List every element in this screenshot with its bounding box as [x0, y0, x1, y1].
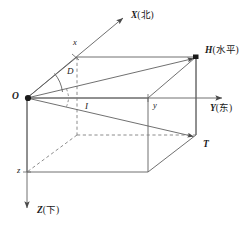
box-hidden-bottom-left-edge: [27, 135, 77, 172]
inclination-angle-arc-lower: [66, 100, 68, 108]
inclination-angle-label: I: [85, 102, 88, 111]
y-axis-tick-label: y: [153, 101, 157, 110]
x-axis-label-paren: (北): [137, 10, 153, 20]
origin-dot: [25, 95, 31, 101]
point-H-dot: [193, 55, 199, 60]
z-axis-label: Z(下): [37, 206, 59, 216]
azimuth-angle-arc: [55, 74, 63, 93]
origin-label: O: [12, 92, 19, 102]
point-H-label-paren: (水平): [212, 45, 238, 55]
diagram-vector-graphics: [0, 0, 251, 233]
box-bottom-right-edge: [148, 135, 196, 172]
ray-origin-to-H: [27, 59, 194, 99]
y-axis-label-paren: (东): [216, 103, 232, 113]
y-axis-label: Y(东): [210, 104, 232, 114]
x-axis-tick-label: x: [73, 38, 77, 47]
x-axis-label: X(北): [131, 11, 154, 21]
point-H-label: H(水平): [205, 46, 239, 56]
point-T-label: T: [203, 140, 209, 150]
z-axis-tick-label: z: [17, 166, 20, 175]
z-axis-label-paren: (下): [43, 205, 59, 215]
ray-origin-to-T: [27, 98, 194, 137]
azimuth-angle-label: D: [67, 67, 74, 76]
inclination-angle-arc-upper: [67, 89, 69, 96]
diagram-canvas: X(北) Y(东) Z(下) H(水平) O T x y z D I: [0, 0, 251, 233]
